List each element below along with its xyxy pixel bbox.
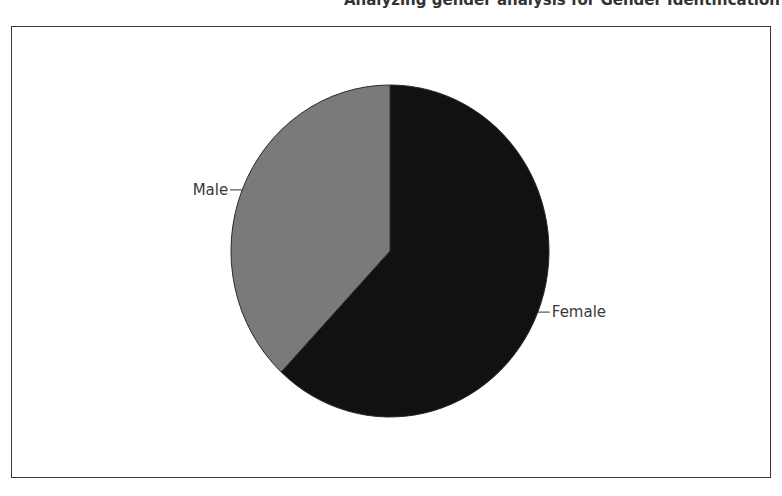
pie-slices [231,85,549,417]
slice-label-female: Female [552,303,606,321]
slice-label-male: Male [193,181,229,199]
pie-chart: FemaleMale [0,0,782,496]
